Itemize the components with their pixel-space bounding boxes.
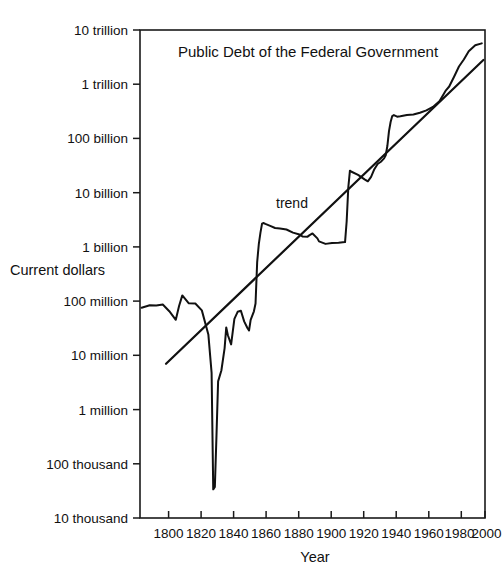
public-debt-log-chart: 10 trillion 1 trillion 100 billion 10 bi…	[0, 0, 503, 583]
ytick-label-100-million: 100 million	[63, 294, 128, 309]
xtick-label-2000: 2000	[471, 526, 501, 541]
plot-frame	[140, 30, 485, 518]
ytick-label-1-trillion: 1 trillion	[81, 77, 128, 92]
trend-annotation-label: trend	[276, 195, 308, 211]
xtick-label-1820: 1820	[186, 526, 216, 541]
xtick-label-1980: 1980	[444, 526, 474, 541]
xtick-label-1880: 1880	[284, 526, 314, 541]
y-axis-title: Current dollars	[10, 262, 105, 278]
x-axis-tick-labels: 1800 1820 1840 1860 1880 1900 1920 1940 …	[154, 526, 502, 541]
chart-figure: 10 trillion 1 trillion 100 billion 10 bi…	[0, 0, 503, 583]
ytick-label-1-million: 1 million	[78, 403, 128, 418]
ytick-label-1-billion: 1 billion	[82, 240, 128, 255]
xtick-label-1800: 1800	[154, 526, 184, 541]
xtick-label-1840: 1840	[219, 526, 249, 541]
chart-title: Public Debt of the Federal Government	[178, 43, 439, 60]
ytick-label-10-thousand: 10 thousand	[54, 511, 128, 526]
ytick-label-10-trillion: 10 trillion	[74, 23, 128, 38]
xtick-label-1920: 1920	[349, 526, 379, 541]
xtick-label-1900: 1900	[316, 526, 346, 541]
x-axis-ticks	[169, 511, 485, 518]
y-axis-ticks	[133, 30, 140, 518]
xtick-label-1960: 1960	[414, 526, 444, 541]
ytick-label-10-billion: 10 billion	[75, 186, 128, 201]
ytick-label-10-million: 10 million	[71, 348, 128, 363]
x-axis-title: Year	[300, 549, 329, 565]
xtick-label-1860: 1860	[251, 526, 281, 541]
xtick-label-1940: 1940	[381, 526, 411, 541]
ytick-label-100-billion: 100 billion	[67, 131, 128, 146]
ytick-label-100-thousand: 100 thousand	[46, 457, 128, 472]
